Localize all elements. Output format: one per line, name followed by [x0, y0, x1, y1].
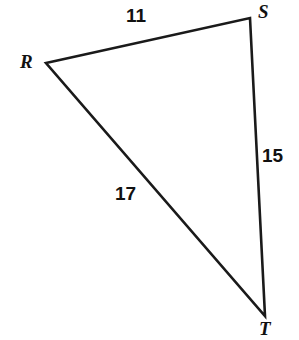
triangle-outline-RST — [46, 18, 265, 316]
triangle-figure: R S T 11 15 17 — [0, 0, 299, 340]
vertex-label-T: T — [259, 319, 271, 338]
side-length-label-RT: 17 — [115, 184, 136, 203]
vertex-label-S: S — [258, 2, 269, 21]
side-length-label-RS: 11 — [126, 6, 146, 25]
triangle-svg — [0, 0, 299, 340]
vertex-label-R: R — [20, 52, 33, 71]
side-length-label-ST: 15 — [262, 146, 283, 165]
